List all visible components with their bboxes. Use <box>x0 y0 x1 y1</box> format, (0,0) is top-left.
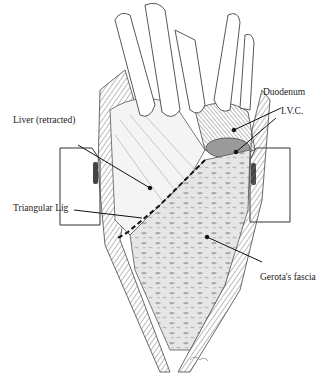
label-ivc: I.V.C. <box>281 106 303 117</box>
label-liver-retracted: Liver (retracted) <box>13 115 76 126</box>
illustration-drawing <box>0 0 333 387</box>
surgeon-hand <box>115 3 254 116</box>
label-gerotas-fascia: Gerota's fascia <box>260 272 316 283</box>
label-triangular-ligament: Triangular Lig <box>13 203 68 214</box>
label-duodenum: Duodenum <box>263 87 305 98</box>
anatomical-illustration: Liver (retracted) Duodenum I.V.C. Triang… <box>0 0 333 387</box>
